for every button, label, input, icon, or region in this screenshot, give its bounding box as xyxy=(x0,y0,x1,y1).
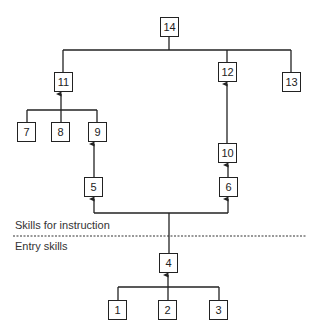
node-10: 10 xyxy=(218,143,237,163)
node-1: 1 xyxy=(108,300,127,320)
node-5: 5 xyxy=(84,177,103,197)
section-label-entry-skills: Entry skills xyxy=(15,240,68,252)
node-2: 2 xyxy=(158,300,177,320)
node-6: 6 xyxy=(219,177,238,197)
section-label-skills-for-instruction: Skills for instruction xyxy=(15,219,110,231)
node-12: 12 xyxy=(218,62,237,82)
node-3: 3 xyxy=(209,300,228,320)
node-7: 7 xyxy=(17,122,36,142)
node-14: 14 xyxy=(160,17,179,37)
node-9: 9 xyxy=(88,122,107,142)
node-8: 8 xyxy=(51,122,70,142)
node-13: 13 xyxy=(282,72,301,92)
node-11: 11 xyxy=(54,72,73,92)
connector-lines xyxy=(0,0,319,335)
node-4: 4 xyxy=(159,253,178,273)
